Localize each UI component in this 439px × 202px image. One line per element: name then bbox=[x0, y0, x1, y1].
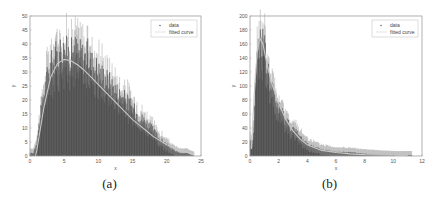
legend-label-data: data bbox=[390, 22, 400, 28]
x-tick-label: 5 bbox=[63, 158, 66, 164]
chart-panel-a: 051015202505101520253035404550xydatafitt… bbox=[0, 0, 219, 202]
x-tick-label: 8 bbox=[363, 158, 366, 164]
y-tick-label: 160 bbox=[239, 41, 248, 47]
y-tick-label: 30 bbox=[22, 69, 28, 75]
y-tick-label: 20 bbox=[22, 97, 28, 103]
y-tick-label: 25 bbox=[22, 83, 28, 89]
x-tick-label: 10 bbox=[391, 158, 397, 164]
y-tick-label: 50 bbox=[22, 13, 28, 19]
x-tick-label: 2 bbox=[277, 158, 280, 164]
y-tick-label: 15 bbox=[22, 111, 28, 117]
y-tick-label: 5 bbox=[25, 139, 28, 145]
y-tick-label: 120 bbox=[239, 69, 248, 75]
y-axis-ticks: 020406080100120140160180200 bbox=[239, 13, 251, 159]
x-axis-label: x bbox=[335, 165, 338, 171]
y-tick-label: 0 bbox=[25, 153, 28, 159]
x-tick-label: 12 bbox=[419, 158, 425, 164]
x-tick-label: 10 bbox=[96, 158, 102, 164]
legend-label-fitted-curve: fitted curve bbox=[390, 29, 415, 35]
x-tick-label: 0 bbox=[29, 158, 32, 164]
data-marker-icon bbox=[159, 25, 160, 26]
y-tick-label: 140 bbox=[239, 55, 248, 61]
legend: datafitted curve bbox=[151, 20, 197, 37]
chart-panel-b: 024681012020406080100120140160180200xyda… bbox=[220, 0, 439, 202]
y-tick-label: 40 bbox=[22, 41, 28, 47]
y-tick-label: 180 bbox=[239, 27, 248, 33]
x-tick-label: 25 bbox=[198, 158, 204, 164]
y-tick-label: 200 bbox=[239, 13, 248, 19]
y-tick-label: 100 bbox=[239, 83, 248, 89]
y-tick-label: 0 bbox=[245, 153, 248, 159]
x-tick-label: 4 bbox=[306, 158, 309, 164]
y-tick-label: 45 bbox=[22, 27, 28, 33]
x-axis-label: x bbox=[114, 165, 117, 171]
y-tick-label: 20 bbox=[242, 139, 248, 145]
y-tick-label: 10 bbox=[22, 125, 28, 131]
y-axis-label: y bbox=[230, 84, 236, 87]
x-tick-label: 15 bbox=[130, 158, 136, 164]
y-axis-label: y bbox=[10, 84, 16, 87]
y-tick-label: 35 bbox=[22, 55, 28, 61]
caption-a: (a) bbox=[0, 176, 219, 192]
legend: datafitted curve bbox=[372, 20, 418, 37]
x-tick-label: 6 bbox=[335, 158, 338, 164]
legend-label-fitted-curve: fitted curve bbox=[169, 29, 194, 35]
caption-b: (b) bbox=[220, 176, 439, 192]
chart-b: 024681012020406080100120140160180200xyda… bbox=[220, 0, 439, 175]
data-marker-icon bbox=[380, 25, 381, 26]
y-tick-label: 40 bbox=[242, 125, 248, 131]
legend-label-data: data bbox=[169, 22, 179, 28]
y-tick-label: 60 bbox=[242, 111, 248, 117]
chart-a: 051015202505101520253035404550xydatafitt… bbox=[0, 0, 219, 175]
x-tick-label: 0 bbox=[249, 158, 252, 164]
y-tick-label: 80 bbox=[242, 97, 248, 103]
x-tick-label: 20 bbox=[164, 158, 170, 164]
